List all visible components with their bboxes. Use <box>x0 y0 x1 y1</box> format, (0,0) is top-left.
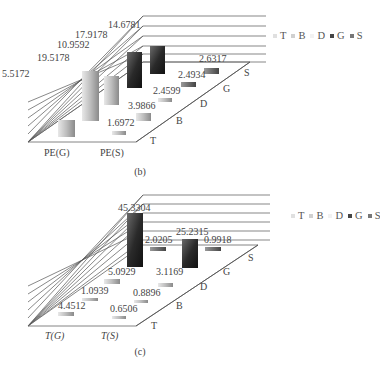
legend-swatch-B <box>309 214 313 218</box>
legend-swatch-S <box>350 34 354 38</box>
depth-label: T <box>150 135 156 146</box>
depth-label: S <box>248 252 254 263</box>
legend-swatch-B <box>291 34 295 38</box>
bar-S-T(G) <box>150 247 166 251</box>
category-label: PE(G) <box>44 147 70 159</box>
category-label: T(S) <box>101 330 119 342</box>
legend-label: D <box>317 30 325 41</box>
bar-D-PE(S) <box>158 98 172 102</box>
value-label: 5.0929 <box>108 266 136 277</box>
chart-b-caption: (b) <box>120 166 160 177</box>
chart-c-legend: T B D G S <box>288 210 380 221</box>
value-label: 14.6781 <box>108 19 141 30</box>
chart-b-svg: 5.5172 19.5178 10.9592 17.9178 14.6781 1… <box>0 0 376 183</box>
value-label: 2.0205 <box>145 234 173 245</box>
value-label: 17.9178 <box>75 29 108 40</box>
value-label: 0.6506 <box>110 303 138 314</box>
bar-S-PE(G) <box>150 46 165 74</box>
depth-label: D <box>200 98 207 109</box>
depth-label: T <box>151 320 157 331</box>
legend-label: S <box>357 30 363 41</box>
value-label: 1.6972 <box>107 117 135 128</box>
legend-label: G <box>337 30 345 41</box>
value-label: 2.4599 <box>153 85 181 96</box>
value-label: 19.5178 <box>37 52 70 63</box>
legend-swatch-T <box>273 34 277 38</box>
legend-label: B <box>316 210 323 221</box>
bar-T-PE(S) <box>112 131 126 135</box>
depth-label: G <box>223 83 230 94</box>
bar-G-PE(S) <box>181 82 196 87</box>
chart-panel-c: 4.4512 1.0939 5.0929 45.3304 2.0205 0.65… <box>0 183 376 366</box>
bar-B-PE(S) <box>136 113 151 121</box>
depth-label: B <box>176 115 183 126</box>
bar-T-T(G) <box>58 312 74 316</box>
legend-label: S <box>375 210 380 221</box>
bar-S-T(S) <box>205 247 221 251</box>
value-label: 4.4512 <box>58 300 86 311</box>
bar-D-T(G) <box>104 279 120 284</box>
value-label: 2.4934 <box>178 69 206 80</box>
bar-G-T(G) <box>127 213 143 267</box>
value-label: 0.9918 <box>204 234 232 245</box>
value-label: 5.5172 <box>2 68 30 79</box>
depth-label: S <box>244 67 250 78</box>
depth-label: B <box>176 300 183 311</box>
legend-swatch-G <box>330 34 334 38</box>
depth-label: D <box>200 281 207 292</box>
legend-swatch-S <box>368 214 372 218</box>
legend-swatch-T <box>291 214 295 218</box>
value-label: 0.8896 <box>133 287 161 298</box>
legend-label: G <box>355 210 363 221</box>
bar-B-PE(G) <box>82 71 99 121</box>
bar-G-T(S) <box>182 239 198 268</box>
value-label: 3.1169 <box>156 266 183 277</box>
legend-label: T <box>298 210 304 221</box>
legend-swatch-D <box>310 34 314 38</box>
chart-c-caption: (c) <box>120 346 160 357</box>
value-label: 2.6317 <box>199 53 227 64</box>
legend-swatch-D <box>328 214 332 218</box>
value-label: 1.0939 <box>81 285 109 296</box>
legend-label: D <box>335 210 343 221</box>
bar-G-PE(G) <box>127 52 142 88</box>
bar-T-PE(G) <box>58 120 75 137</box>
value-label: 3.9866 <box>128 100 156 111</box>
value-label: 45.3304 <box>118 202 151 213</box>
legend-label: T <box>280 30 286 41</box>
chart-b-legend: T B D G S <box>270 30 362 41</box>
category-label: PE(S) <box>100 147 124 159</box>
bar-S-PE(S) <box>204 68 219 74</box>
depth-label: G <box>223 266 230 277</box>
legend-swatch-G <box>348 214 352 218</box>
chart-panel-b: 5.5172 19.5178 10.9592 17.9178 14.6781 1… <box>0 0 376 183</box>
value-label: 10.9592 <box>57 39 90 50</box>
category-label: T(G) <box>45 330 65 342</box>
bar-T-T(S) <box>112 316 126 319</box>
legend-label: B <box>298 30 305 41</box>
bar-D-PE(G) <box>104 76 119 105</box>
